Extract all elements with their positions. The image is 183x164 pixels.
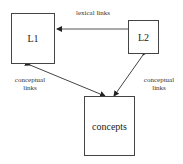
conceptual-right-line1: conceptual: [139, 76, 179, 84]
lexical-links-label: lexical links: [72, 9, 114, 17]
node-l2-label: L2: [138, 32, 149, 43]
node-l2: L2: [128, 20, 159, 54]
conceptual-right-line2: links: [139, 84, 179, 92]
node-concepts-label: concepts: [92, 121, 127, 132]
conceptual-links-left-label: conceptual links: [10, 76, 50, 92]
conceptual-left-line2: links: [10, 84, 50, 92]
conceptual-left-line1: conceptual: [10, 76, 50, 84]
node-l1-label: L1: [27, 33, 38, 44]
node-l1: L1: [11, 13, 55, 64]
conceptual-links-right-label: conceptual links: [139, 76, 179, 92]
node-concepts: concepts: [84, 96, 135, 156]
